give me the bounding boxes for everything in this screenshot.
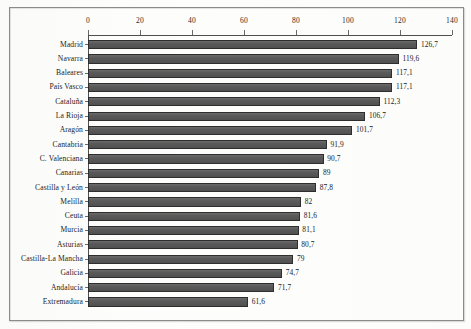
bar[interactable] [88, 269, 282, 278]
bar[interactable] [88, 83, 392, 92]
bar-row: Castilla y León87,8 [88, 181, 452, 195]
bar-row: Melilla82 [88, 195, 452, 209]
bar-value-label: 80,7 [301, 238, 314, 252]
bar[interactable] [88, 154, 324, 163]
category-label: Castilla-La Mancha [0, 252, 83, 266]
bar-row: Baleares117,1 [88, 66, 452, 80]
bar-row: Cataluña112,3 [88, 95, 452, 109]
category-label: La Rioja [0, 109, 83, 123]
bar[interactable] [88, 169, 319, 178]
bar[interactable] [88, 140, 327, 149]
category-label: Melilla [0, 195, 83, 209]
bar-value-label: 89 [323, 166, 331, 180]
bar[interactable] [88, 183, 316, 192]
bar[interactable] [88, 255, 293, 264]
bar-value-label: 81,1 [302, 223, 315, 237]
bar-row: Asturias80,7 [88, 238, 452, 252]
bar-row: Cantabria91,9 [88, 138, 452, 152]
bar[interactable] [88, 97, 380, 106]
bar-value-label: 101,7 [356, 123, 373, 137]
bar-value-label: 87,8 [320, 181, 333, 195]
category-label: Asturias [0, 238, 83, 252]
x-tick-label: 0 [86, 16, 90, 25]
bar-row: País Vasco117,1 [88, 80, 452, 94]
bar-value-label: 82 [305, 195, 313, 209]
bar[interactable] [88, 69, 392, 78]
bar-value-label: 81,6 [304, 209, 317, 223]
category-label: Navarra [0, 52, 83, 66]
bar-value-label: 117,1 [396, 80, 413, 94]
bar[interactable] [88, 212, 300, 221]
category-label: Canarias [0, 166, 83, 180]
bar-row: Navarra119,6 [88, 52, 452, 66]
category-label: Murcia [0, 223, 83, 237]
category-label: Galicia [0, 266, 83, 280]
bar-value-label: 71,7 [278, 281, 291, 295]
bar-row: Andalucía71,7 [88, 281, 452, 295]
category-label: País Vasco [0, 80, 83, 94]
x-tick-label: 80 [292, 16, 300, 25]
bar[interactable] [88, 126, 352, 135]
bar-value-label: 126,7 [421, 38, 438, 52]
bar-row: Castilla-La Mancha79 [88, 252, 452, 266]
x-tick-mark [452, 30, 453, 35]
bar-value-label: 61,6 [252, 295, 265, 309]
bar-value-label: 119,6 [402, 52, 419, 66]
bar-row: Murcia81,1 [88, 223, 452, 237]
bar-value-label: 90,7 [327, 152, 340, 166]
bar-value-label: 112,3 [383, 95, 400, 109]
category-label: C. Valenciana [0, 152, 83, 166]
bar-row: Madrid126,7 [88, 38, 452, 52]
bar-row: Galicia74,7 [88, 266, 452, 280]
bar-value-label: 117,1 [396, 66, 413, 80]
category-label: Andalucía [0, 281, 83, 295]
bar-row: Aragón101,7 [88, 123, 452, 137]
x-tick-label: 100 [342, 16, 354, 25]
bar[interactable] [88, 297, 248, 306]
bar-row: Canarias89 [88, 166, 452, 180]
bar-row: Extremadura61,6 [88, 295, 452, 309]
bar[interactable] [88, 40, 417, 49]
category-label: Castilla y León [0, 181, 83, 195]
bar-row: C. Valenciana90,7 [88, 152, 452, 166]
bar-value-label: 74,7 [286, 266, 299, 280]
bar[interactable] [88, 283, 274, 292]
bar-value-label: 79 [297, 252, 305, 266]
category-label: Aragón [0, 123, 83, 137]
x-tick-label: 140 [446, 16, 458, 25]
category-label: Ceuta [0, 209, 83, 223]
bar-value-label: 106,7 [369, 109, 386, 123]
x-tick-label: 120 [394, 16, 406, 25]
category-label: Madrid [0, 38, 83, 52]
chart-screenshot: 020406080100120140 Madrid126,7Navarra119… [0, 0, 471, 329]
category-label: Baleares [0, 66, 83, 80]
bar-value-label: 91,9 [330, 138, 343, 152]
bar[interactable] [88, 240, 298, 249]
bar[interactable] [88, 112, 365, 121]
x-tick-label: 40 [188, 16, 196, 25]
bar[interactable] [88, 226, 299, 235]
plot-area: Madrid126,7Navarra119,6Baleares117,1País… [88, 35, 452, 312]
category-label: Cantabria [0, 138, 83, 152]
bar-row: Ceuta81,6 [88, 209, 452, 223]
category-label: Extremadura [0, 295, 83, 309]
x-tick-label: 60 [240, 16, 248, 25]
x-tick-label: 20 [136, 16, 144, 25]
bar-row: La Rioja106,7 [88, 109, 452, 123]
bar[interactable] [88, 197, 301, 206]
category-label: Cataluña [0, 95, 83, 109]
bar[interactable] [88, 54, 399, 63]
